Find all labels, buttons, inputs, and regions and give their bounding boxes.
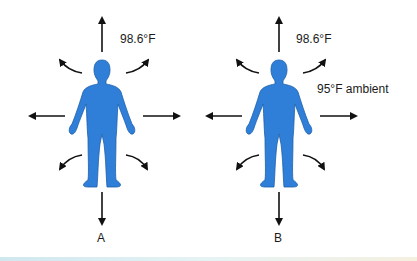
panel-b [207,18,356,224]
ambient-label-b: 95°F ambient [317,82,389,96]
panel-a [30,18,179,224]
panel-label-a: A [97,231,105,245]
heat-loss-diagram [0,0,417,261]
panel-label-b: B [274,231,282,245]
human-body-b [246,60,312,187]
bottom-divider [0,257,417,261]
temp-label-a: 98.6°F [120,32,155,46]
temp-label-b: 98.6°F [296,32,331,46]
human-body-a [69,60,135,187]
